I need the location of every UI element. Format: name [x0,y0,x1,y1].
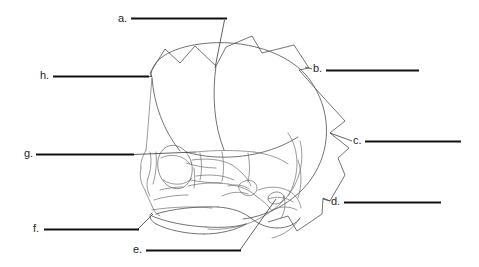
facial-bone-line [154,195,188,200]
mandible-line [150,213,156,224]
label-letter-g: g. [24,147,33,159]
frontal-bone-curve [152,78,180,151]
label-group-d: d. [323,195,441,207]
label-letter-f: f. [33,222,39,234]
cranium-outline [151,43,326,219]
facial-bone-line [140,168,145,190]
zygomatic-arch-line [192,159,232,165]
mandible-line [218,207,252,219]
maxilla-nasal-line [186,163,216,168]
leader-line-a [215,20,225,68]
label-letter-c: c. [353,134,362,146]
label-group-g: g. [24,147,196,159]
squamous-suture [186,137,298,157]
mandible-line [156,224,204,234]
leader-line-c [330,133,352,141]
orbit-outline [153,142,197,193]
label-letter-e: e. [133,243,142,255]
label-lines-layer: a.b.c.d.e.f.g.h. [24,12,461,255]
facial-bone-line [148,152,151,178]
label-letter-d: d. [331,195,340,207]
leader-line-g [133,152,196,155]
leader-line-f [138,214,153,229]
skull-lateral-diagram: a.b.c.d.e.f.g.h. [0,0,479,267]
label-group-a: a. [118,12,227,68]
sphenoid-region-line [196,151,254,153]
figure-page: a.b.c.d.e.f.g.h. [0,0,479,267]
orbit-superior-margin [161,155,190,164]
mandibular-condyle-line [254,182,257,194]
temporal-mastoid-line [258,187,289,191]
label-letter-h: h. [40,69,49,81]
label-group-f: f. [33,214,153,234]
sphenoid-region-line [248,153,250,182]
label-letter-a: a. [118,12,127,24]
facial-bone-line [153,152,156,184]
label-letter-b: b. [313,62,322,74]
coronal-suture [214,66,224,150]
sphenoid-region-line [254,152,288,164]
label-group-b: b. [305,62,419,74]
mandibular-condyle-line [240,180,254,184]
facial-bone-line [146,78,152,150]
occipital-base-line [240,199,285,226]
facial-bone-line [141,150,146,168]
label-group-c: c. [330,133,461,146]
facial-bone-line [147,178,150,196]
mandibular-condyle-line [222,192,248,196]
zygomatic-arch-line [196,175,234,180]
temporal-mastoid-line [298,160,301,198]
mandible-line [152,216,206,227]
maxilla-nasal-line [194,168,195,188]
label-group-h: h. [40,69,152,81]
facial-bone-line [152,206,160,216]
